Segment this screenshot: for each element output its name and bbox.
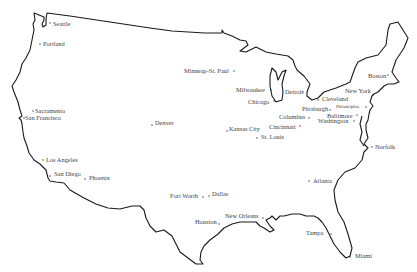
city-atlanta: Atlanta — [308, 177, 332, 184]
city-label: Minneap-St. Paul — [184, 67, 229, 74]
city-new-orleans: New Orleans — [225, 212, 264, 219]
city-dallas: Dallas — [208, 190, 229, 197]
city-label: Portland — [43, 40, 65, 47]
city-label: New York — [345, 87, 372, 94]
city-dot-icon — [371, 146, 372, 147]
city-dot-icon — [372, 94, 373, 95]
city-label: Denver — [155, 119, 175, 126]
city-boston: Boston — [368, 72, 389, 79]
city-label: Tampa — [306, 229, 323, 236]
lake-michigan — [270, 68, 286, 102]
city-label: Cincinnati — [269, 123, 296, 130]
city-st-louis: St. Louis — [256, 133, 284, 140]
city-label: San Diego — [54, 170, 81, 177]
city-label: Philadelphia — [336, 104, 359, 109]
city-pittsburgh: Pittsburgh — [302, 105, 331, 112]
city-label: Norfolk — [375, 143, 396, 150]
city-dot-icon — [256, 137, 257, 138]
city-dot-icon — [308, 180, 309, 181]
city-dot-icon — [317, 99, 318, 100]
city-label: Houston — [195, 218, 217, 225]
city-label: Cleveland — [322, 95, 349, 102]
city-los-angeles: Los Angeles — [42, 156, 78, 163]
us-outline — [12, 13, 408, 264]
city-dot-icon — [365, 106, 366, 107]
city-dot-icon — [262, 217, 263, 218]
city-dot-icon — [387, 74, 388, 75]
city-label: Sacramento — [35, 107, 65, 114]
city-minneap-st-paul: Minneap-St. Paul — [184, 67, 235, 74]
city-dot-icon — [202, 196, 203, 197]
city-philadelphia: Philadelphia — [336, 104, 367, 109]
city-milwaukee: Milwaukee — [236, 86, 272, 93]
city-dot-icon — [299, 125, 300, 126]
city-label: Los Angeles — [46, 156, 78, 163]
city-dot-icon — [49, 175, 50, 176]
city-phoenix: Phoenix — [84, 174, 110, 181]
city-label: Seattle — [53, 20, 71, 27]
city-label: New Orleans — [225, 212, 259, 219]
city-chicago: Chicago — [248, 98, 275, 105]
city-columbus: Columbus — [279, 113, 310, 120]
city-fort-worth: Fort Worth — [170, 192, 204, 199]
city-dot-icon — [218, 223, 219, 224]
city-kansas-city: Kansas City — [226, 125, 261, 132]
city-dot-icon — [353, 120, 354, 121]
city-cleveland: Cleveland — [317, 95, 348, 102]
city-dot-icon — [84, 178, 85, 179]
city-dot-icon — [330, 233, 331, 234]
city-dot-icon — [39, 43, 40, 44]
city-cincinnati: Cincinnati — [269, 123, 301, 130]
city-dot-icon — [329, 109, 330, 110]
city-dot-icon — [226, 130, 227, 131]
city-label: Miami — [355, 252, 372, 259]
city-label: Detroit — [285, 88, 303, 95]
city-dot-icon — [151, 124, 152, 125]
city-label: Phoenix — [89, 174, 111, 181]
city-new-york: New York — [345, 87, 374, 96]
city-denver: Denver — [151, 119, 174, 126]
city-label: Atlanta — [313, 177, 332, 184]
city-label: Pittsburgh — [302, 105, 329, 112]
us-map: SeattlePortlandSacramentoSan FranciscoLo… — [0, 0, 417, 272]
city-dot-icon — [32, 110, 33, 111]
city-dot-icon — [356, 114, 357, 115]
city-portland: Portland — [39, 40, 65, 47]
city-san-diego: San Diego — [49, 170, 81, 177]
city-label: Boston — [368, 72, 387, 79]
city-houston: Houston — [195, 218, 220, 225]
city-dot-icon — [208, 195, 209, 196]
city-dot-icon — [49, 22, 50, 23]
city-sacramento: Sacramento — [32, 107, 65, 114]
city-dot-icon — [273, 100, 274, 101]
city-miami: Miami — [349, 252, 372, 259]
city-label: Dallas — [212, 190, 229, 197]
city-label: Fort Worth — [170, 192, 199, 199]
chesapeake-bay — [360, 116, 364, 146]
city-norfolk: Norfolk — [371, 143, 396, 150]
city-dot-icon — [349, 256, 350, 257]
city-label: Kansas City — [229, 125, 261, 132]
city-dot-icon — [308, 117, 309, 118]
city-dot-icon — [42, 159, 43, 160]
city-label: San Francisco — [25, 114, 61, 121]
city-seattle: Seattle — [49, 20, 70, 27]
city-detroit: Detroit — [285, 88, 304, 95]
city-label: St. Louis — [261, 133, 285, 140]
city-dot-icon — [233, 70, 234, 71]
city-san-francisco: San Francisco — [23, 114, 61, 121]
city-layer: SeattlePortlandSacramentoSan FranciscoLo… — [23, 20, 396, 260]
city-label: Chicago — [248, 98, 269, 105]
city-dot-icon — [270, 89, 271, 90]
city-label: Columbus — [279, 113, 306, 120]
city-label: Washington — [318, 117, 349, 124]
city-label: Milwaukee — [236, 86, 265, 93]
